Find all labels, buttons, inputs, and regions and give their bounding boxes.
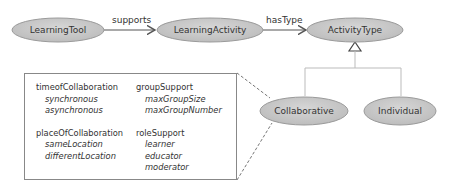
- attribute-value: moderator: [136, 162, 222, 174]
- attribute-value: asynchronous: [36, 105, 123, 117]
- attribute-name: timeofCollaboration: [36, 82, 123, 94]
- attribute-name: placeOfCollaboration: [36, 128, 123, 140]
- attribute-value: sameLocation: [36, 139, 123, 151]
- attribute-value: synchronous: [36, 94, 123, 106]
- node-label: Individual: [378, 106, 422, 116]
- node-learning-activity[interactable]: LearningActivity: [157, 18, 263, 42]
- attribute-value: differentLocation: [36, 151, 123, 163]
- attribute-name: groupSupport: [136, 82, 222, 94]
- attribute-value: educator: [136, 151, 222, 163]
- node-activity-type[interactable]: ActivityType: [307, 18, 403, 42]
- callout-line-top: [237, 73, 270, 98]
- attributes-right-column: groupSupport maxGroupSize maxGroupNumber…: [136, 82, 222, 174]
- attribute-value: maxGroupSize: [136, 94, 222, 106]
- node-label: ActivityType: [328, 25, 383, 35]
- node-label: Collaborative: [274, 106, 334, 116]
- node-learning-tool[interactable]: LearningTool: [12, 18, 104, 42]
- inheritance-triangle: [349, 42, 361, 51]
- callout-line-bottom: [237, 123, 272, 180]
- supports-label: supports: [112, 15, 152, 25]
- node-individual[interactable]: Individual: [364, 97, 436, 125]
- node-label: LearningTool: [30, 25, 87, 35]
- hastype-label: hasType: [266, 15, 303, 25]
- attributes-left-column: timeofCollaboration synchronous asynchro…: [36, 82, 123, 162]
- node-collaborative[interactable]: Collaborative: [260, 97, 348, 125]
- node-label: LearningActivity: [174, 25, 247, 35]
- inheritance-branch: [305, 68, 401, 96]
- attribute-value: learner: [136, 139, 222, 151]
- attribute-name: roleSupport: [136, 128, 222, 140]
- collaboration-attributes-box: timeofCollaboration synchronous asynchro…: [24, 73, 237, 180]
- attribute-value: maxGroupNumber: [136, 105, 222, 117]
